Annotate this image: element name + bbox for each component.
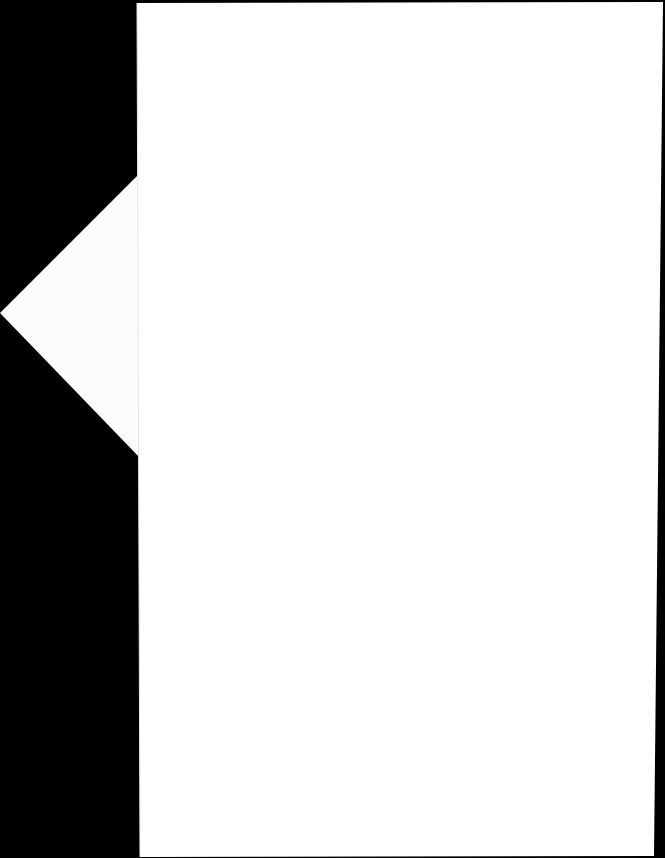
scene bbox=[0, 0, 665, 858]
blank-page bbox=[0, 0, 665, 858]
